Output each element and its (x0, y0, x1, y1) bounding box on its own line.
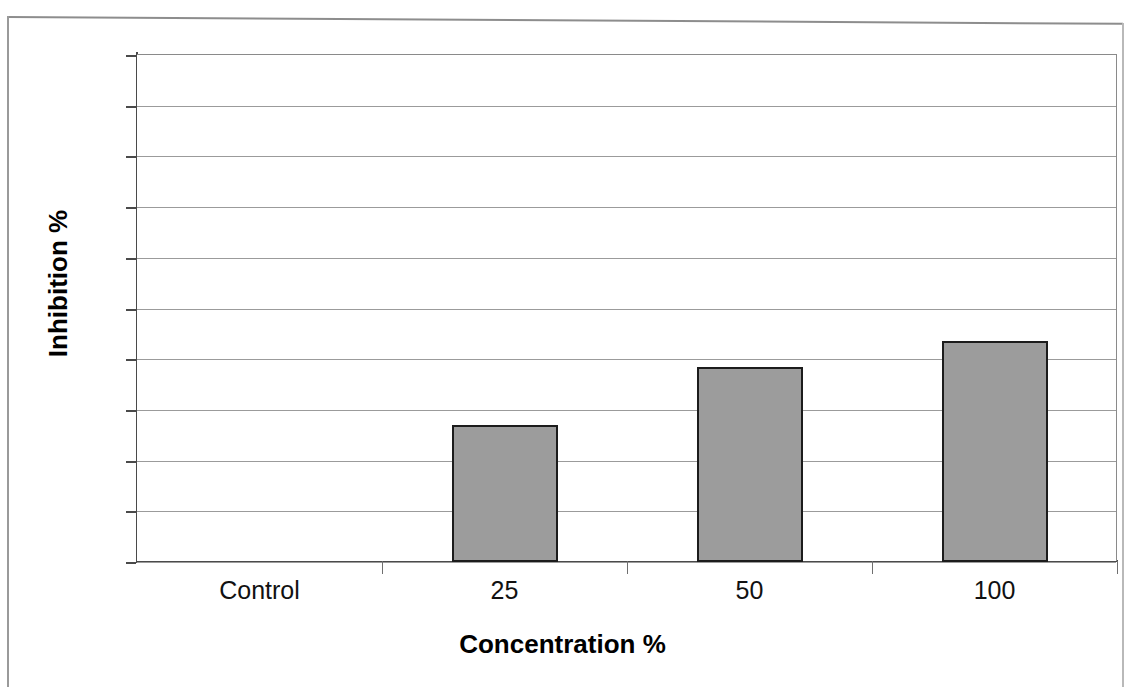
bar-chart-figure: Inhibition % Concentration % 01020304050… (0, 0, 1125, 687)
figure-border-top (7, 16, 1123, 25)
gridline (137, 309, 1116, 310)
y-tick-mark (126, 511, 136, 513)
x-tick-mark (1117, 561, 1118, 574)
x-tick-label: 25 (395, 578, 615, 603)
x-tick-label: 50 (640, 578, 860, 603)
x-tick-mark (872, 561, 873, 574)
y-tick-mark (126, 258, 136, 260)
x-tick-label: 100 (885, 578, 1105, 603)
gridline (137, 106, 1116, 107)
y-tick-mark (126, 156, 136, 158)
y-tick-mark (126, 55, 136, 57)
gridline (137, 207, 1116, 208)
y-tick-mark (126, 410, 136, 412)
y-tick-mark (126, 207, 136, 209)
x-axis-title: Concentration % (0, 629, 1125, 660)
x-tick-mark (382, 561, 383, 574)
figure-border-right (1122, 23, 1124, 687)
y-axis-title: Inhibition % (43, 154, 74, 414)
gridline (137, 156, 1116, 157)
plot-area (137, 54, 1117, 561)
figure-border-left (7, 16, 9, 687)
y-tick-mark (126, 106, 136, 108)
bar-25 (452, 425, 558, 562)
y-tick-mark (126, 359, 136, 361)
x-tick-label: Control (150, 578, 370, 603)
bar-50 (697, 367, 803, 562)
y-tick-mark (126, 562, 136, 564)
x-tick-mark (627, 561, 628, 574)
gridline (137, 258, 1116, 259)
y-tick-mark (126, 461, 136, 463)
bar-100 (942, 341, 1048, 562)
y-tick-mark (126, 309, 136, 311)
